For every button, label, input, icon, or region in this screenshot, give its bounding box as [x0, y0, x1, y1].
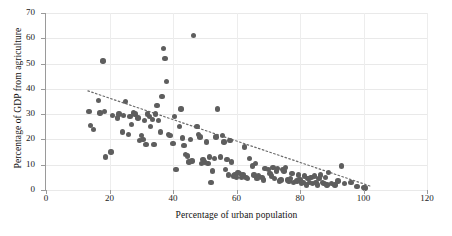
data-point [108, 149, 113, 154]
data-point [167, 133, 172, 138]
data-point [335, 178, 340, 183]
y-tick-mark [41, 89, 45, 90]
data-point [261, 177, 266, 182]
data-point [289, 171, 294, 176]
data-point [208, 180, 213, 185]
data-point [213, 134, 218, 139]
trendline [46, 13, 427, 190]
data-point [159, 94, 164, 99]
data-point [348, 180, 353, 185]
data-point [278, 177, 283, 182]
data-point [158, 129, 163, 134]
data-point [194, 124, 199, 129]
data-point [339, 163, 344, 168]
x-axis-title: Percentage of urban population [46, 210, 427, 220]
data-point [189, 158, 194, 163]
y-tick-mark [41, 64, 45, 65]
data-point [154, 103, 159, 108]
data-point [135, 115, 140, 120]
data-point [178, 106, 183, 111]
data-point [151, 142, 156, 147]
y-tick-mark [41, 165, 45, 166]
y-tick-mark [41, 114, 45, 115]
data-point [197, 134, 202, 139]
data-point [162, 56, 167, 61]
gridline-vertical [427, 13, 428, 190]
data-point [150, 117, 155, 122]
data-point [215, 106, 220, 111]
data-point [205, 161, 210, 166]
data-point [120, 129, 125, 134]
data-point [86, 109, 91, 114]
scatter-chart: Percentage of GDP from agriculture Perce… [0, 0, 452, 236]
data-point [354, 184, 359, 189]
data-point [323, 175, 328, 180]
y-tick-mark [41, 13, 45, 14]
data-point [96, 98, 101, 103]
data-point [204, 139, 209, 144]
data-point [247, 156, 252, 161]
data-point [212, 156, 217, 161]
y-tick-mark [41, 38, 45, 39]
plot-area [46, 13, 427, 190]
data-point [153, 111, 158, 116]
data-point [180, 135, 185, 140]
y-tick-mark [41, 190, 45, 191]
data-point [221, 139, 226, 144]
data-point [143, 142, 148, 147]
data-point [170, 141, 175, 146]
y-tick-mark [41, 139, 45, 140]
data-point [242, 144, 247, 149]
y-axis-title: Percentage of GDP from agriculture [13, 8, 23, 188]
data-point [100, 58, 105, 63]
